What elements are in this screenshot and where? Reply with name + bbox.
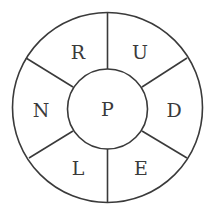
letter-wheel-diagram: P R U D E L N: [0, 0, 212, 215]
center-letter: P: [101, 98, 114, 120]
segment-letter-bottom-right: E: [134, 157, 148, 179]
divider-upper-right: [142, 58, 187, 87]
segment-letter-left: N: [33, 99, 50, 121]
divider-lower-left: [29, 131, 73, 158]
segment-letter-top-left: R: [71, 41, 86, 63]
segment-letter-bottom-left: L: [72, 157, 85, 179]
segment-letter-top-right: U: [132, 41, 148, 63]
segment-letter-right: D: [166, 99, 181, 121]
divider-lower-right: [142, 131, 187, 158]
divider-upper-left: [26, 58, 73, 87]
